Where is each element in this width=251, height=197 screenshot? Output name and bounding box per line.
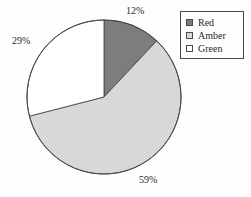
slice-label-green: 29% [12, 35, 30, 46]
legend-item-green: Green [186, 42, 239, 54]
legend-label-red: Red [198, 17, 214, 28]
legend-label-amber: Amber [198, 30, 226, 41]
legend-item-red: Red [186, 16, 239, 28]
legend-item-amber: Amber [186, 29, 239, 41]
legend-swatch-green-icon [186, 45, 193, 52]
slice-label-amber: 59% [139, 174, 157, 185]
slice-label-red: 12% [126, 5, 144, 16]
legend-swatch-red-icon [186, 19, 193, 26]
pie-chart-figure: 12% 29% 59% Red Amber Green [0, 0, 251, 197]
legend-label-green: Green [198, 43, 222, 54]
legend: Red Amber Green [180, 11, 244, 59]
pie-slice-group [27, 20, 181, 174]
legend-swatch-amber-icon [186, 32, 193, 39]
